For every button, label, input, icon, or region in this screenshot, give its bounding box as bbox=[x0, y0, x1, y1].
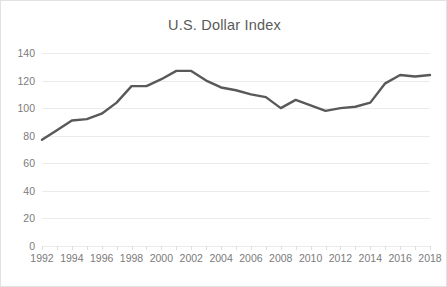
x-axis-tick-label: 2002 bbox=[180, 253, 203, 264]
x-axis-tick-mark bbox=[221, 246, 222, 250]
x-axis-tick-label: 2016 bbox=[388, 253, 411, 264]
x-axis-tick-label: 2012 bbox=[329, 253, 352, 264]
x-axis-tick-label: 1996 bbox=[90, 253, 113, 264]
x-axis-tick-mark bbox=[117, 246, 118, 250]
x-axis-tick-mark bbox=[42, 246, 43, 250]
x-axis-tick-mark bbox=[57, 246, 58, 250]
x-axis-tick-mark bbox=[161, 246, 162, 250]
x-axis-tick-mark bbox=[400, 246, 401, 250]
x-axis-tick-mark bbox=[340, 246, 341, 250]
x-axis-tick-mark bbox=[102, 246, 103, 250]
x-axis-tick-mark bbox=[281, 246, 282, 250]
x-axis-tick-mark bbox=[296, 246, 297, 250]
x-axis-tick-label: 2000 bbox=[150, 253, 173, 264]
y-axis-tick-label: 100 bbox=[17, 103, 35, 114]
x-axis-tick-mark bbox=[176, 246, 177, 250]
x-axis-tick-label: 2014 bbox=[359, 253, 382, 264]
x-axis-tick-label: 1992 bbox=[30, 253, 53, 264]
x-axis-tick-mark bbox=[251, 246, 252, 250]
x-axis-tick-mark bbox=[191, 246, 192, 250]
x-axis-tick-mark bbox=[87, 246, 88, 250]
x-axis-tick-mark bbox=[132, 246, 133, 250]
chart-title: U.S. Dollar Index bbox=[1, 17, 447, 33]
x-axis-tick-mark bbox=[311, 246, 312, 250]
x-axis-tick-label: 2004 bbox=[209, 253, 232, 264]
y-axis-tick-label: 120 bbox=[17, 75, 35, 86]
y-axis-tick-label: 20 bbox=[23, 213, 35, 224]
y-axis-tick-label: 140 bbox=[17, 48, 35, 59]
x-axis-tick-mark bbox=[236, 246, 237, 250]
x-axis-tick-mark bbox=[146, 246, 147, 250]
y-axis-tick-label: 0 bbox=[29, 241, 35, 252]
x-axis-tick-mark bbox=[355, 246, 356, 250]
y-axis-tick-label: 60 bbox=[23, 158, 35, 169]
x-axis-tick-mark bbox=[206, 246, 207, 250]
x-axis-tick-label: 2010 bbox=[299, 253, 322, 264]
x-axis-tick-label: 1998 bbox=[120, 253, 143, 264]
x-axis-tick-mark bbox=[370, 246, 371, 250]
plot-area: 020406080100120140 199219941996199820002… bbox=[42, 53, 430, 246]
x-axis-tick-mark bbox=[266, 246, 267, 250]
x-axis-tick-label: 2008 bbox=[269, 253, 292, 264]
x-axis-tick-label: 1994 bbox=[60, 253, 83, 264]
x-axis-tick-mark bbox=[326, 246, 327, 250]
chart-container: U.S. Dollar Index 020406080100120140 199… bbox=[0, 0, 447, 287]
data-series-line bbox=[42, 53, 430, 246]
y-axis-tick-label: 80 bbox=[23, 130, 35, 141]
x-axis-tick-mark bbox=[415, 246, 416, 250]
x-axis-tick-mark bbox=[385, 246, 386, 250]
x-axis-tick-mark bbox=[72, 246, 73, 250]
x-axis-tick-mark bbox=[430, 246, 431, 250]
x-axis-tick-label: 2018 bbox=[418, 253, 441, 264]
y-axis-tick-label: 40 bbox=[23, 186, 35, 197]
x-axis-tick-label: 2006 bbox=[239, 253, 262, 264]
